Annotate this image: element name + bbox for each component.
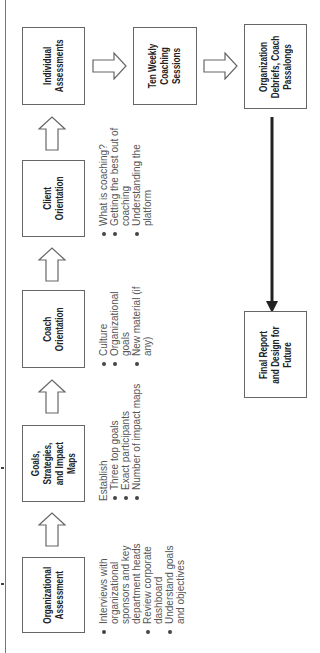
box-client-orientation: Client Orientation — [22, 160, 85, 237]
bullet-item: Organizational goals — [109, 277, 131, 367]
bullet-item: Getting the best out of coaching — [109, 127, 131, 237]
bullets-lead: Establish — [98, 381, 109, 501]
box-title: Goals, Strategies, and Impact Maps — [30, 442, 78, 485]
box-title: Final Report and Design for Future — [258, 326, 294, 383]
page-mark — [1, 467, 4, 469]
box-title: Organization Debriefs, Coach Passalongs — [258, 35, 294, 97]
box-ten-weekly-coaching: Ten Weekly Coaching Sessions — [133, 27, 197, 105]
bullets-goals-strategies: Establish Three top goals Exact particip… — [98, 381, 142, 501]
box-title: Coach Orientation — [42, 307, 66, 351]
arrow-right-icon — [38, 511, 66, 547]
bullet-item: Exact participants — [120, 381, 131, 501]
box-title: Individual Assessments — [42, 40, 66, 93]
arrow-right-icon — [38, 246, 66, 282]
arrow-down-icon — [92, 52, 128, 80]
box-goals-strategies: Goals, Strategies, and Impact Maps — [22, 425, 85, 502]
box-individual-assessments: Individual Assessments — [22, 27, 85, 105]
box-coach-orientation: Coach Orientation — [22, 290, 85, 368]
box-title: Organizational Assessment — [42, 567, 66, 624]
bullet-item: Culture — [98, 277, 109, 367]
box-organization-debriefs: Organization Debriefs, Coach Passalongs — [244, 24, 307, 109]
arrow-right-icon — [38, 378, 66, 414]
bullet-item: Number of impact maps — [131, 381, 142, 501]
arrow-right-icon — [38, 115, 66, 151]
box-title: Ten Weekly Coaching Sessions — [147, 44, 183, 88]
bullet-item: Understanding the platform — [131, 127, 153, 237]
page-mark — [1, 583, 4, 585]
bullets-coach-orientation: Culture Organizational goals New materia… — [98, 277, 153, 367]
box-organizational-assessment: Organizational Assessment — [22, 557, 85, 633]
process-diagram: Organizational Assessment Goals, Strateg… — [0, 0, 320, 653]
bullet-item: Interviews with organizational sponsors … — [98, 535, 142, 635]
bullet-item: What is coaching? — [98, 127, 109, 237]
bullet-item: Understand goals and objectives — [164, 535, 186, 635]
box-final-report: Final Report and Design for Future — [244, 311, 307, 398]
bullets-organizational-assessment: Interviews with organizational sponsors … — [98, 535, 186, 635]
box-title: Client Orientation — [42, 177, 66, 221]
page-border — [5, 0, 6, 653]
arrow-left-solid-icon — [264, 115, 280, 313]
bullet-item: New material (if any) — [131, 277, 153, 367]
arrow-down-icon — [203, 52, 239, 80]
bullets-client-orientation: What is coaching? Getting the best out o… — [98, 127, 153, 237]
bullet-item: Review corporate dashboard — [142, 535, 164, 635]
bullet-item: Three top goals — [109, 381, 120, 501]
